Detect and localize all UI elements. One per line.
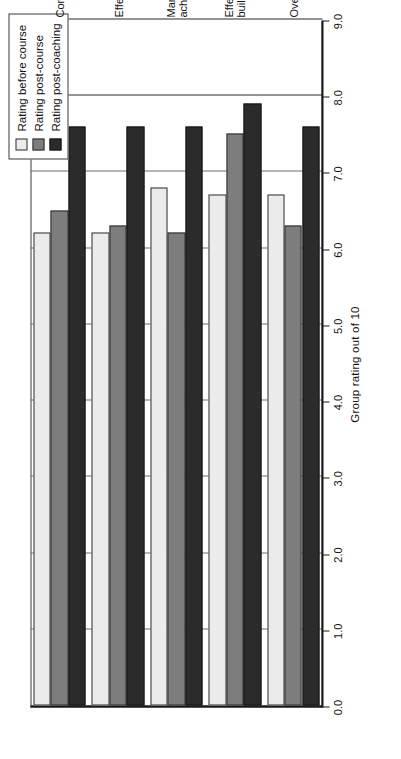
category-label-line: Effectiveness <box>112 0 124 17</box>
axis-tick-label: 3.0 <box>331 471 343 486</box>
bar-post-course <box>284 225 301 705</box>
axis-ticks: 0.01.02.03.04.05.06.07.08.09.0 <box>322 21 323 707</box>
rotated-figure-wrapper: 0.01.02.03.04.05.06.07.08.09.0 Group rat… <box>0 0 401 759</box>
category-label-line: achievement <box>176 0 188 17</box>
bar-before <box>267 194 284 705</box>
category-label: Overall performance <box>287 0 299 17</box>
legend-label: Rating post-course <box>32 34 44 131</box>
axis-tick-label: 9.0 <box>331 13 343 28</box>
axis-tick-label: 4.0 <box>331 394 343 409</box>
bar-group <box>264 21 322 705</box>
legend-label: Rating before course <box>15 24 27 131</box>
bar-before <box>208 194 225 705</box>
category-label-line: Management and goal <box>164 0 176 17</box>
axis-tick <box>322 172 329 173</box>
bar-post-coaching <box>185 126 202 705</box>
bar-post-coaching <box>126 126 143 705</box>
axis-tick-label: 8.0 <box>331 90 343 105</box>
axis-tick <box>322 401 329 402</box>
bar-chart-figure: 0.01.02.03.04.05.06.07.08.09.0 Group rat… <box>0 0 401 759</box>
category-label: Confidence <box>53 0 65 17</box>
axis-tick-label: 7.0 <box>331 166 343 181</box>
axis-tick <box>322 554 329 555</box>
category-label: Effective relationshipbuilding <box>222 0 246 17</box>
category-label-line: Confidence <box>53 0 65 17</box>
axis-tick <box>322 477 329 478</box>
axis-tick-label: 2.0 <box>331 547 343 562</box>
bar-group <box>205 21 263 705</box>
category-label-line: Overall performance <box>287 0 299 17</box>
axis-tick <box>322 706 329 707</box>
bar-post-course <box>226 133 243 705</box>
legend-item: Rating post-coaching <box>49 23 61 150</box>
axis-tick-label: 1.0 <box>331 623 343 638</box>
axis-tick-label: 6.0 <box>331 242 343 257</box>
axis-tick <box>322 630 329 631</box>
axis-tick <box>322 325 329 326</box>
bar-post-course <box>109 225 126 705</box>
legend-swatch-before-course-icon <box>15 138 27 150</box>
legend-item: Rating before course <box>15 23 27 150</box>
legend-swatch-post-coaching-icon <box>49 138 61 150</box>
category-label-line: Effective relationship <box>222 0 234 17</box>
plot-area <box>30 21 322 707</box>
axis-tick <box>322 249 329 250</box>
category-label: Management and goalachievement <box>164 0 188 17</box>
axis-tick-label: 5.0 <box>331 318 343 333</box>
legend-swatch-post-course-icon <box>32 138 44 150</box>
bar-group <box>147 21 205 705</box>
legend-label: Rating post-coaching <box>49 23 61 131</box>
category-label-line: building <box>234 0 246 17</box>
bar-before <box>150 187 167 705</box>
legend-item: Rating post-course <box>32 23 44 150</box>
bar-post-course <box>50 210 67 705</box>
category-label: Effectiveness <box>112 0 124 17</box>
bar-post-coaching <box>243 103 260 705</box>
bar-post-coaching <box>68 126 85 705</box>
gridline-9 <box>30 18 322 19</box>
axis-tick <box>322 20 329 21</box>
chart-legend: Rating before course Rating post-course … <box>8 13 68 159</box>
bar-before <box>91 232 108 705</box>
bar-post-coaching <box>302 126 319 705</box>
bar-post-course <box>167 232 184 705</box>
bar-before <box>33 232 50 705</box>
axis-tick <box>322 96 329 97</box>
axis-tick-label: 0.0 <box>331 699 343 714</box>
axis-title: Group rating out of 10 <box>348 21 360 707</box>
bar-group <box>88 21 146 705</box>
